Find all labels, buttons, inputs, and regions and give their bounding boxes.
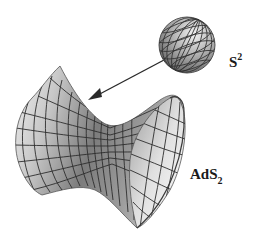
hyperboloid-adS2 [15,66,188,228]
sphere-label: S2 [229,53,242,70]
arrowhead-icon [88,88,102,100]
mapping-arrow [88,60,164,100]
diagram-figure [0,0,267,242]
hyperboloid-label: AdS2 [190,167,223,185]
sphere-s2 [153,9,220,80]
